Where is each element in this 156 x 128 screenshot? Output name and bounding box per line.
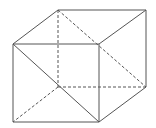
cube-diagram [0,0,156,128]
edge-BTR-FTR [99,10,146,44]
edge-FTL-BTL [13,10,58,44]
edge-BBR-FBR [99,87,146,122]
hidden-edge-BTL-BBR [58,10,146,87]
edge-FTL-FBR [13,44,99,122]
hidden-edge-BBL-FBL [13,87,58,122]
